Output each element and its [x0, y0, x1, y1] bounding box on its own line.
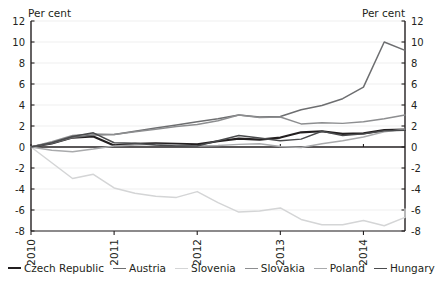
legend-line-swatch	[374, 268, 387, 269]
y-tick-label: 4	[19, 100, 25, 111]
legend-line-swatch	[245, 268, 258, 269]
y-axis-left	[31, 21, 35, 231]
chart-legend: Czech RepublicAustriaSloveniaSlovakiaPol…	[0, 255, 437, 281]
legend-item-austria[interactable]: Austria	[113, 263, 166, 274]
y-tick-label: 12	[411, 16, 424, 27]
grid-lines	[31, 21, 405, 231]
y-tick-label: 2	[411, 121, 417, 132]
legend-line-swatch	[314, 268, 327, 269]
legend-item-hungary[interactable]: Hungary	[374, 263, 435, 274]
y-tick-label: 0	[19, 142, 25, 153]
y-tick-label: 10	[12, 37, 25, 48]
y-tick-labels-right: 121086420-2-4-6-8	[411, 16, 424, 237]
series-line-slovenia	[31, 147, 405, 226]
legend-label: Czech Republic	[24, 263, 104, 274]
series-line-austria	[31, 42, 405, 147]
data-series	[31, 42, 405, 226]
chart-page: 121086420-2-4-6-8 121086420-2-4-6-8 2010…	[0, 0, 437, 283]
y-tick-label: 6	[19, 79, 25, 90]
legend-item-slovenia[interactable]: Slovenia	[175, 263, 236, 274]
y-tick-label: -4	[411, 184, 421, 195]
legend-item-slovakia[interactable]: Slovakia	[245, 263, 305, 274]
legend-line-swatch	[113, 268, 126, 269]
legend-item-czech-republic[interactable]: Czech Republic	[8, 263, 104, 274]
legend-label: Austria	[129, 263, 166, 274]
y-tick-label: -4	[15, 184, 25, 195]
y-tick-label: -2	[15, 163, 25, 174]
left-axis-unit-label: Per cent	[28, 7, 71, 19]
legend-label: Poland	[330, 263, 365, 274]
legend-label: Hungary	[390, 263, 435, 274]
legend-label: Slovenia	[191, 263, 236, 274]
y-tick-label: 4	[411, 100, 417, 111]
y-tick-label: -8	[15, 226, 25, 237]
y-tick-label: 6	[411, 79, 417, 90]
y-tick-label: 2	[19, 121, 25, 132]
legend-line-swatch	[8, 267, 21, 269]
y-tick-label: 8	[411, 58, 417, 69]
legend-label: Slovakia	[261, 263, 305, 274]
y-tick-label: 10	[411, 37, 424, 48]
y-tick-label: -8	[411, 226, 421, 237]
y-tick-label: 0	[411, 142, 417, 153]
y-tick-label: 12	[12, 16, 25, 27]
y-tick-label: -2	[411, 163, 421, 174]
y-axis-right	[402, 21, 406, 231]
right-axis-unit-label: Per cent	[362, 7, 405, 19]
y-tick-labels-left: 121086420-2-4-6-8	[12, 16, 25, 237]
line-chart: 121086420-2-4-6-8 121086420-2-4-6-8 2010…	[0, 0, 437, 283]
y-tick-label: -6	[411, 205, 421, 216]
legend-line-swatch	[175, 268, 188, 269]
y-tick-label: 8	[19, 58, 25, 69]
y-tick-label: -6	[15, 205, 25, 216]
legend-item-poland[interactable]: Poland	[314, 263, 365, 274]
series-line-czech-republic	[31, 130, 405, 147]
